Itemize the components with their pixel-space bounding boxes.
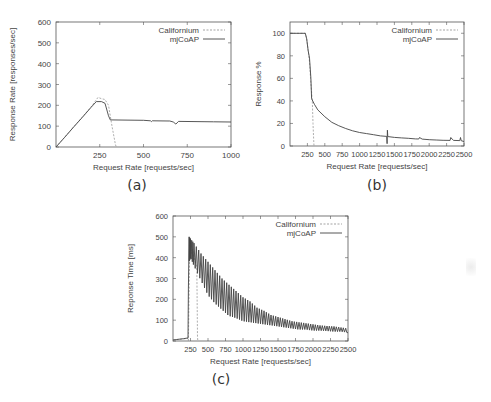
x-tick-label: 2000 xyxy=(421,150,438,159)
y-tick-label: 100 xyxy=(272,29,285,38)
x-tick-label: 750 xyxy=(181,151,195,160)
x-tick-label: 250 xyxy=(301,150,314,159)
scan-artifact xyxy=(466,258,476,276)
x-axis-label: Request Rate [requests/sec] xyxy=(327,162,428,171)
x-axis-label: Request Rate [requests/sec] xyxy=(93,163,194,172)
x-tick-label: 250 xyxy=(184,345,197,354)
y-tick-label: 40 xyxy=(277,97,285,106)
x-tick-label: 1500 xyxy=(270,345,287,354)
y-tick-label: 0 xyxy=(281,142,285,151)
legend-label: Californium xyxy=(159,26,200,35)
x-tick-label: 2500 xyxy=(340,345,357,354)
x-axis-label: Request Rate [requests/sec] xyxy=(210,357,311,366)
y-axis-label: Response % xyxy=(254,61,263,106)
y-axis-label: Response Rate [responses/sec] xyxy=(8,28,17,141)
x-tick-label: 1000 xyxy=(222,151,240,160)
y-tick-label: 300 xyxy=(155,275,168,284)
y-tick-label: 600 xyxy=(155,212,168,221)
series-mjcoap xyxy=(173,237,348,340)
legend-label: Californium xyxy=(392,26,433,35)
y-tick-label: 600 xyxy=(38,18,52,27)
chart-c-plot: 0100200300400500600250500750100012501500… xyxy=(120,200,370,375)
y-tick-label: 400 xyxy=(38,60,52,69)
y-axis-label: Reponse Time [ms] xyxy=(126,244,135,313)
legend-label: mjCoAP xyxy=(403,35,432,44)
x-tick-label: 1500 xyxy=(386,150,403,159)
chart-b: 0204060801002505007501000125015001750200… xyxy=(245,0,491,200)
x-tick-label: 1750 xyxy=(403,150,420,159)
chart-a: 01002003004005006002505007501000Request … xyxy=(0,0,245,200)
x-tick-label: 2500 xyxy=(456,150,473,159)
caption-b: (b) xyxy=(357,177,397,193)
x-tick-label: 1250 xyxy=(252,345,269,354)
x-tick-label: 1000 xyxy=(235,345,252,354)
y-tick-label: 60 xyxy=(277,74,285,83)
y-tick-label: 200 xyxy=(38,101,52,110)
x-tick-label: 500 xyxy=(319,150,332,159)
legend-label: Californium xyxy=(276,220,317,229)
caption-a: (a) xyxy=(117,177,157,193)
y-tick-label: 500 xyxy=(38,39,52,48)
y-tick-label: 0 xyxy=(164,337,168,346)
x-tick-label: 750 xyxy=(219,345,232,354)
y-tick-label: 500 xyxy=(155,233,168,242)
series-californium xyxy=(56,97,116,147)
x-tick-label: 250 xyxy=(93,151,107,160)
x-tick-label: 2000 xyxy=(305,345,322,354)
x-tick-label: 750 xyxy=(336,150,349,159)
chart-c: 0100200300400500600250500750100012501500… xyxy=(120,200,370,402)
series-californium xyxy=(290,33,314,146)
x-tick-label: 2250 xyxy=(438,150,455,159)
y-tick-label: 300 xyxy=(38,81,52,90)
series-mjcoap xyxy=(56,102,231,147)
y-tick-label: 100 xyxy=(38,122,52,131)
y-tick-label: 80 xyxy=(277,52,285,61)
legend-label: mjCoAP xyxy=(287,229,316,238)
plot-frame xyxy=(290,22,464,146)
x-tick-label: 1000 xyxy=(351,150,368,159)
x-tick-label: 500 xyxy=(137,151,151,160)
y-tick-label: 400 xyxy=(155,254,168,263)
chart-b-plot: 0204060801002505007501000125015001750200… xyxy=(245,0,491,175)
x-tick-label: 1750 xyxy=(287,345,304,354)
y-tick-label: 200 xyxy=(155,295,168,304)
x-tick-label: 500 xyxy=(202,345,215,354)
y-tick-label: 20 xyxy=(277,119,285,128)
y-tick-label: 100 xyxy=(155,316,168,325)
series-mjcoap xyxy=(290,33,464,143)
plot-frame xyxy=(56,22,231,147)
x-tick-label: 1250 xyxy=(369,150,386,159)
chart-a-plot: 01002003004005006002505007501000Request … xyxy=(0,0,245,175)
y-tick-label: 0 xyxy=(47,143,52,152)
x-tick-label: 2250 xyxy=(322,345,339,354)
legend-label: mjCoAP xyxy=(170,35,199,44)
caption-c: (c) xyxy=(201,371,241,387)
